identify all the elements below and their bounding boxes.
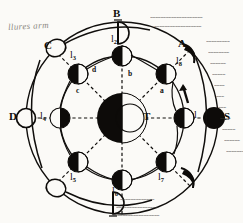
- hatch-row: ~~~~: [214, 82, 224, 88]
- figure-canvas: llures arm B C D A S T l l2 l3 l4 l5 l6 …: [0, 0, 243, 223]
- label-A: A: [178, 38, 186, 49]
- hatch-row: ~~~~~~~: [226, 148, 243, 154]
- label-D: D: [9, 111, 17, 122]
- hatch-row: ~~~~~~: [224, 137, 240, 143]
- label-l3: l3: [70, 50, 76, 62]
- moon-l2: [112, 46, 132, 66]
- hatch-row: ~~~~~: [222, 126, 235, 132]
- label-T: T: [143, 111, 150, 122]
- hatch-row: ~~~~~~: [210, 60, 226, 66]
- hatch-row: ~~~~~~~~~~~~~~~~~~~~: [150, 14, 202, 20]
- hatch-row: ~~~~~~~~~~~~~~~~: [116, 204, 158, 210]
- label-b: b: [128, 70, 132, 78]
- label-l5: l5: [70, 172, 76, 184]
- label-B: B: [113, 8, 120, 19]
- hatch-row: ~~~: [216, 93, 224, 99]
- hatch-row: ~~~~~~~~~~~~~~~~~~: [154, 23, 201, 29]
- hatch-row: ~~~~~: [212, 71, 225, 77]
- moon-l4: [50, 108, 70, 128]
- label-l2: l2: [111, 34, 117, 46]
- label-l8: l8: [176, 56, 182, 68]
- outer-mark-B: [118, 22, 129, 44]
- label-l6: l6: [112, 186, 118, 198]
- hatch-row: ~~~~~~~~~~~~~~~~~~: [112, 212, 159, 218]
- label-a: a: [160, 87, 164, 95]
- moon-l7: [156, 152, 176, 172]
- moon-l3: [68, 64, 88, 84]
- label-l1: l: [194, 110, 197, 120]
- earth-body: [97, 93, 147, 143]
- hatch-row: ~~~~~~~~~: [206, 38, 230, 44]
- hatch-row: ~~~~~~~~~~~~~: [120, 196, 154, 202]
- moon-l1: [174, 108, 194, 128]
- label-C: C: [44, 40, 52, 51]
- hatch-row: ~~~~: [220, 115, 230, 121]
- lunar-phase-diagram-svg: [0, 0, 243, 223]
- outer-mark-lower-left: [44, 176, 69, 199]
- label-l4: l4: [40, 111, 46, 123]
- hatch-row: ~~~~~~~~: [208, 49, 229, 55]
- moon-l8: [156, 64, 176, 84]
- orbit-direction-arrow: [179, 84, 188, 103]
- label-c: c: [76, 87, 79, 95]
- label-d: d: [92, 66, 96, 74]
- moon-l5: [68, 152, 88, 172]
- label-l7: l7: [158, 172, 164, 184]
- hatch-row: ~~~: [218, 104, 226, 110]
